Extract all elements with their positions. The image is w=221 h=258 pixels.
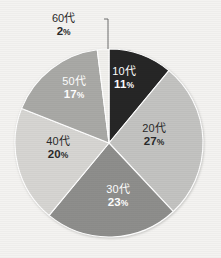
slice-label-50dai: 50代 17% — [62, 76, 86, 101]
slice-label-30dai: 30代 23% — [106, 184, 130, 209]
slice-label-10dai: 10代 11% — [112, 66, 136, 91]
slice-label-30dai-category: 30代 — [106, 184, 130, 196]
slice-label-10dai-percent: 11% — [112, 78, 136, 90]
pie-slices-group — [15, 49, 203, 237]
slice-label-50dai-category: 50代 — [62, 76, 86, 88]
slice-label-20dai-percent: 27% — [142, 135, 166, 147]
slice-label-40dai: 40代 20% — [46, 136, 70, 161]
slice-callout-60dai-percent: 2% — [52, 25, 75, 38]
slice-label-20dai-category: 20代 — [142, 123, 166, 135]
slice-label-50dai-percent: 17% — [62, 88, 86, 100]
pie-chart-svg — [0, 0, 221, 258]
slice-label-10dai-category: 10代 — [112, 66, 136, 78]
slice-label-40dai-category: 40代 — [46, 136, 70, 148]
pie-chart-figure: 10代 11% 20代 27% 30代 23% 40代 20% 50代 17% … — [0, 0, 221, 258]
slice-label-20dai: 20代 27% — [142, 123, 166, 148]
slice-callout-label-60dai: 60代 2% — [52, 12, 75, 37]
slice-label-30dai-percent: 23% — [106, 196, 130, 208]
callout-leader-line — [104, 19, 108, 49]
slice-label-40dai-percent: 20% — [46, 148, 70, 160]
slice-callout-60dai-category: 60代 — [52, 12, 75, 24]
